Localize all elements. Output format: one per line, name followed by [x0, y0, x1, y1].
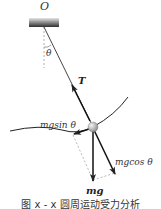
normal-component-label: mgcos θ	[115, 158, 153, 167]
tension-arrow	[72, 85, 90, 121]
figure-caption: 图 x - x 圆周运动受力分析	[0, 200, 161, 209]
normal-component-arrow	[94, 130, 115, 174]
dashed-component-line	[93, 173, 115, 180]
ceiling-support	[29, 18, 59, 27]
gravity-label: mg	[86, 186, 104, 196]
angle-arc	[44, 45, 51, 47]
tension-label: T	[78, 76, 85, 86]
dashed-component-line	[73, 135, 93, 180]
tangential-force-label: mgsin θ	[40, 121, 76, 130]
pendulum-force-diagram	[0, 0, 161, 209]
pivot-label: O	[40, 1, 49, 12]
angle-label: θ	[46, 49, 51, 58]
pendulum-bob	[88, 122, 98, 132]
